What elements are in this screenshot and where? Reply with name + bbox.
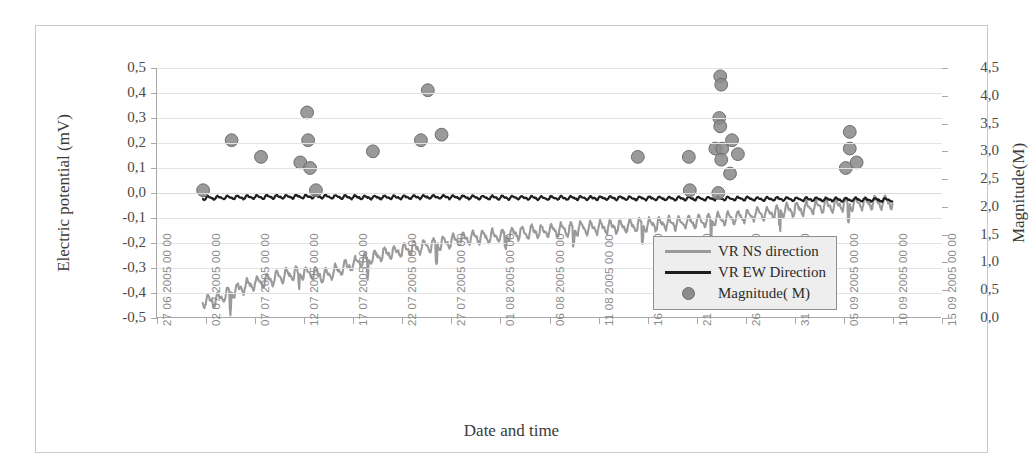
y-axis-tick-left [151, 218, 157, 219]
y-axis-tick-label-right: 0,5 [953, 282, 999, 297]
legend-item-label: VR EW Direction [714, 264, 826, 281]
y-axis-tick-label-left: -0,5 [86, 310, 146, 325]
magnitude-point [683, 184, 696, 197]
y-axis-title-left: Electric potential (mV) [54, 68, 74, 318]
y-axis-tick-left [151, 143, 157, 144]
x-axis-tick [942, 318, 943, 324]
magnitude-point [225, 134, 238, 147]
x-axis-tick-label: 22 07 2005 00 00 [406, 233, 418, 326]
magnitude-point [850, 156, 863, 169]
x-axis-tick-label: 02 07 2005 00 00 [210, 233, 222, 326]
gridline [157, 118, 942, 119]
circle-marker-icon [682, 287, 695, 300]
gridline [157, 168, 942, 169]
y-axis-tick-right [942, 68, 948, 69]
magnitude-point [435, 128, 448, 141]
chart-frame: Electric potential (mV) Magnitude(M) 0,5… [35, 25, 988, 453]
y-axis-tick-right [942, 151, 948, 152]
x-axis-tick [304, 318, 305, 324]
magnitude-point [310, 184, 323, 197]
x-axis-tick-label: 17 07 2005 00 00 [357, 233, 369, 326]
x-axis-tick [500, 318, 501, 324]
legend-item-label: Magnitude( M) [714, 285, 810, 302]
legend-marker-dot-icon [662, 287, 714, 300]
magnitude-point [631, 150, 644, 163]
x-axis-tick-label: 06 08 2005 00 00 [554, 233, 566, 326]
x-axis-tick [599, 318, 600, 324]
y-axis-tick-label-left: 0,2 [86, 135, 146, 150]
x-axis-tick [255, 318, 256, 324]
legend-item-label: VR NS direction [714, 243, 819, 260]
y-axis-tick-left [151, 68, 157, 69]
y-axis-tick-right [942, 207, 948, 208]
x-axis-title: Date and time [36, 421, 987, 441]
x-axis-tick [550, 318, 551, 324]
x-axis-tick-label: 27 07 2005 00 00 [455, 233, 467, 326]
magnitude-point [302, 134, 315, 147]
y-axis-tick-label-left: -0,4 [86, 285, 146, 300]
y-axis-tick-label-left: -0,2 [86, 235, 146, 250]
magnitude-point [682, 150, 695, 163]
magnitude-point [724, 167, 737, 180]
y-axis-tick-left [151, 268, 157, 269]
y-axis-tick-label-left: 0,0 [86, 185, 146, 200]
magnitude-point [843, 142, 856, 155]
magnitude-point [843, 125, 856, 138]
chart-legend: VR NS directionVR EW DirectionMagnitude(… [653, 236, 837, 310]
x-axis-tick [648, 318, 649, 324]
x-axis-tick [157, 318, 158, 324]
magnitude-point [732, 148, 745, 161]
x-axis-tick [402, 318, 403, 324]
legend-marker-line-icon [662, 250, 714, 253]
magnitude-point [715, 153, 728, 166]
magnitude-point [255, 150, 268, 163]
legend-item: Magnitude( M) [662, 283, 826, 304]
x-axis-tick-label: 10 09 2005 00 00 [897, 233, 909, 326]
magnitude-point [421, 84, 434, 97]
y-axis-tick-label-left: 0,4 [86, 85, 146, 100]
x-axis-tick [795, 318, 796, 324]
y-axis-tick-label-right: 3,0 [953, 143, 999, 158]
y-axis-tick-left [151, 168, 157, 169]
x-axis-tick-label: 15 09 2005 00 00 [946, 233, 958, 326]
y-axis-tick-label-right: 4,0 [953, 88, 999, 103]
y-axis-tick-left [151, 293, 157, 294]
x-axis-title-text: Date and time [464, 421, 559, 440]
x-axis-tick [746, 318, 747, 324]
y-axis-title-right-text: Magnitude(M) [1009, 143, 1028, 243]
x-axis-tick [206, 318, 207, 324]
x-axis-tick [451, 318, 452, 324]
y-axis-tick-label-right: 3,5 [953, 116, 999, 131]
y-axis-tick-right [942, 179, 948, 180]
gridline [157, 143, 942, 144]
y-axis-tick-label-right: 0,0 [953, 310, 999, 325]
y-axis-tick-left [151, 118, 157, 119]
magnitude-point [715, 78, 728, 91]
line-marker-icon [665, 271, 711, 274]
x-axis-tick-label: 12 07 2005 00 00 [308, 233, 320, 326]
x-axis-tick-label: 05 09 2005 00 00 [848, 233, 860, 326]
y-axis-tick-right [942, 124, 948, 125]
y-axis-tick-label-left: 0,1 [86, 160, 146, 175]
x-axis-tick-label: 07 07 2005 00 00 [259, 233, 271, 326]
y-axis-tick-left [151, 193, 157, 194]
y-axis-tick-right [942, 96, 948, 97]
legend-item: VR EW Direction [662, 262, 826, 283]
y-axis-tick-left [151, 93, 157, 94]
y-axis-tick-left [151, 243, 157, 244]
y-axis-tick-label-left: 0,5 [86, 60, 146, 75]
y-axis-title-left-text: Electric potential (mV) [54, 114, 73, 272]
x-axis-tick [353, 318, 354, 324]
magnitude-point [415, 134, 428, 147]
x-axis-tick-label: 11 08 2005 00 00 [603, 234, 615, 326]
y-axis-tick-label-left: -0,3 [86, 260, 146, 275]
magnitude-point [366, 145, 379, 158]
gridline [157, 218, 942, 219]
x-axis-tick-label: 27 06 2005 00 00 [161, 233, 173, 326]
magnitude-point [197, 184, 210, 197]
x-axis-tick [893, 318, 894, 324]
gridline [157, 93, 942, 94]
magnitude-point [301, 106, 314, 119]
y-axis-tick-label-right: 2,0 [953, 199, 999, 214]
